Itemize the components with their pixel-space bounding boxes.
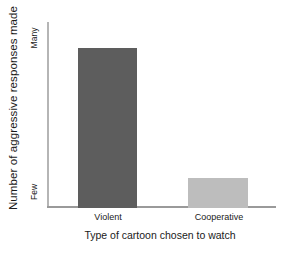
y-axis-max-tick-label: Many xyxy=(27,18,41,58)
y-axis-title-text: Number of aggressive responses made xyxy=(7,6,19,210)
x-axis-title: Type of cartoon chosen to watch xyxy=(40,229,280,241)
y-axis-min-tick-text: Few xyxy=(29,184,39,200)
bar-cooperative xyxy=(188,178,248,208)
y-axis-max-tick-text: Many xyxy=(29,28,39,49)
y-axis-title: Number of aggressive responses made xyxy=(0,0,26,216)
plot-area xyxy=(47,22,276,208)
x-axis-tick-label-cooperative: Cooperative xyxy=(158,212,280,222)
x-axis-tick-label-violent: Violent xyxy=(48,212,168,222)
bar-violent xyxy=(78,48,137,208)
bar-chart-figure: Number of aggressive responses made Many… xyxy=(0,0,290,254)
y-axis-min-tick-label: Few xyxy=(27,175,41,209)
